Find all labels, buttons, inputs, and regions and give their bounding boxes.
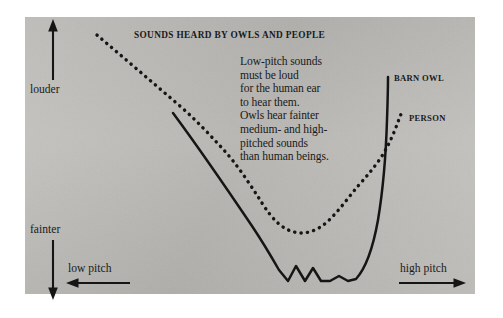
x-axis-label-low-pitch: low pitch [68, 263, 111, 275]
y-axis-label-louder: louder [30, 84, 60, 96]
annotation-text: Low-pitch sounds must be loud for the hu… [240, 55, 329, 164]
page-title: SOUNDS HEARD BY OWLS AND PEOPLE [134, 31, 325, 40]
x-axis-label-high-pitch: high pitch [400, 263, 447, 275]
legend-label-barn-owl: BARN OWL [394, 74, 444, 83]
y-axis-label-fainter: fainter [30, 224, 60, 236]
figure-root: SOUNDS HEARD BY OWLS AND PEOPLE Low-pitc… [0, 0, 503, 318]
legend-label-person: PERSON [409, 114, 446, 123]
